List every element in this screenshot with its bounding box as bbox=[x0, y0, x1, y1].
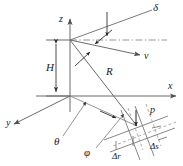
ground-range-arrow bbox=[100, 111, 116, 118]
slant-range-line bbox=[70, 40, 137, 126]
point-target-label: p bbox=[150, 105, 155, 115]
x-axis-label: x bbox=[168, 81, 172, 91]
azimuth-angle-label: φ bbox=[84, 147, 90, 158]
incidence-angle-label: θ bbox=[54, 136, 59, 147]
range-resolution-dimension bbox=[116, 136, 133, 150]
depression-angle-indicator bbox=[75, 52, 90, 66]
z-axis-label: z bbox=[59, 14, 63, 24]
squint-angle-label: δ bbox=[153, 2, 158, 13]
y-axis-label: y bbox=[6, 118, 10, 128]
velocity-label: v bbox=[144, 51, 148, 61]
y-axis bbox=[14, 96, 70, 124]
azimuth-angle-leader bbox=[96, 114, 124, 148]
slant-range-label: R bbox=[106, 66, 113, 77]
figure-canvas: z x y H R v δ θ φ p Δr Δs bbox=[0, 0, 183, 166]
squint-ray bbox=[70, 10, 152, 40]
range-resolution-label: Δr bbox=[112, 152, 121, 161]
incidence-angle-leader bbox=[63, 102, 86, 136]
altitude-label: H bbox=[46, 62, 54, 73]
azimuth-resolution-label: Δs bbox=[150, 142, 159, 151]
